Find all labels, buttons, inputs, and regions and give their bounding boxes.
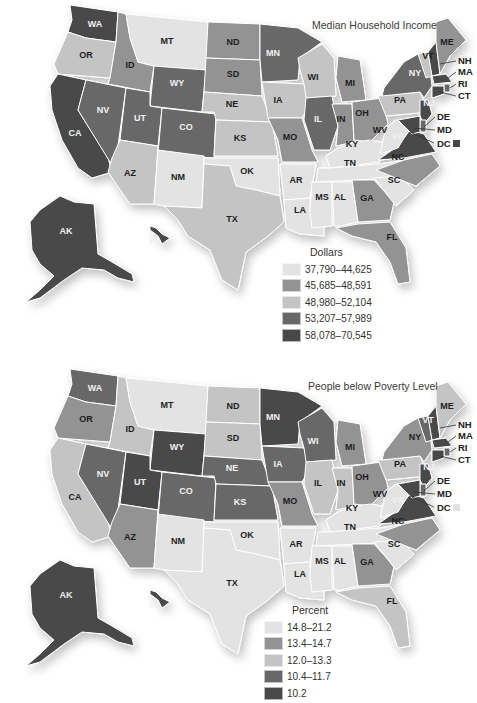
state-label-ut: UT — [134, 113, 146, 123]
state-label-ky: KY — [346, 139, 359, 149]
callout-label-ct: CT — [458, 454, 471, 465]
state-label-mo: MO — [283, 496, 298, 506]
legend-item: 45,685–48,591 — [282, 278, 372, 295]
legend-item: 10.4–11.7 — [264, 669, 332, 686]
state-ma — [432, 74, 452, 84]
state-label-wy: WY — [170, 442, 185, 452]
state-label-ks: KS — [234, 133, 247, 143]
state-label-co: CO — [179, 122, 193, 132]
state-label-me: ME — [440, 401, 454, 411]
state-ms — [310, 546, 332, 592]
state-co — [158, 108, 216, 158]
callout-label-ri: RI — [458, 78, 468, 89]
state-label-or: OR — [79, 50, 93, 60]
legend-item: 10.2 — [264, 685, 332, 702]
state-label-co: CO — [179, 486, 193, 496]
state-label-tn: TN — [344, 522, 356, 532]
map-panel-income: WAORCAIDNVMTWYUTCOAZNMNDSDNEKSOKTXMNIAMO… — [0, 0, 477, 350]
legend-item: 37,790–44,625 — [282, 261, 372, 278]
legend-label: 45,685–48,591 — [305, 280, 372, 291]
dc-swatch — [453, 504, 460, 511]
legend-swatch — [282, 296, 301, 309]
state-label-hi: HI — [150, 600, 159, 610]
state-label-oh: OH — [355, 108, 369, 118]
state-fl — [336, 586, 410, 648]
state-label-tn: TN — [344, 158, 356, 168]
state-label-sc: SC — [388, 539, 401, 549]
callout-label-ma: MA — [458, 430, 473, 441]
callout-label-ct: CT — [458, 90, 471, 101]
legend-item: 14.8–21.2 — [264, 619, 332, 636]
state-label-vt: VT — [422, 51, 434, 61]
legend-label: 10.4–11.7 — [287, 671, 331, 682]
state-label-nv: NV — [97, 469, 110, 479]
state-label-sd: SD — [227, 69, 240, 79]
state-label-ar: AR — [290, 175, 303, 185]
callout-label-de: DE — [437, 475, 450, 486]
legend: Dollars 37,790–44,625 45,685–48,591 48,9… — [282, 246, 372, 344]
legend-label: 37,790–44,625 — [305, 264, 372, 275]
state-label-mt: MT — [161, 36, 174, 46]
state-label-mn: MN — [266, 412, 280, 422]
legend-swatch — [264, 637, 283, 650]
state-ma — [432, 438, 452, 448]
state-label-nj: NJ — [423, 98, 435, 108]
legend-label: 58,078–70,545 — [305, 330, 372, 341]
leader-line — [450, 84, 456, 88]
legend-swatch — [264, 670, 283, 683]
state-label-mt: MT — [161, 400, 174, 410]
state-label-nd: ND — [227, 401, 240, 411]
state-label-or: OR — [79, 414, 93, 424]
state-wy — [150, 66, 206, 112]
state-label-ar: AR — [290, 539, 303, 549]
callout-label-nh: NH — [458, 419, 472, 430]
us-map-income: WAORCAIDNVMTWYUTCOAZNMNDSDNEKSOKTXMNIAMO… — [0, 0, 477, 350]
state-label-fl: FL — [387, 232, 398, 242]
state-label-wi: WI — [308, 72, 319, 82]
state-wy — [150, 430, 206, 476]
state-ak — [26, 196, 134, 302]
legend-item: 53,207–57,989 — [282, 311, 372, 328]
state-label-ks: KS — [234, 497, 247, 507]
state-label-nd: ND — [227, 37, 240, 47]
state-ia — [262, 82, 310, 118]
state-label-mo: MO — [283, 132, 298, 142]
state-label-nm: NM — [171, 172, 185, 182]
legend-label: 13.4–14.7 — [287, 638, 332, 649]
state-label-mi: MI — [345, 78, 355, 88]
state-label-tx: TX — [226, 578, 238, 588]
state-ct — [432, 450, 444, 462]
state-label-id: ID — [126, 424, 136, 434]
state-label-ne: NE — [226, 463, 239, 473]
state-label-me: ME — [440, 37, 454, 47]
state-ct — [432, 86, 444, 98]
legend-label: 12.0–13.3 — [287, 655, 332, 666]
state-label-az: AZ — [124, 168, 136, 178]
state-ri — [444, 84, 450, 92]
state-label-wi: WI — [308, 436, 319, 446]
callout-label-ri: RI — [458, 442, 468, 453]
state-label-ga: GA — [360, 557, 374, 567]
state-label-ak: AK — [60, 226, 73, 236]
state-label-ny: NY — [409, 432, 422, 442]
state-label-nm: NM — [171, 536, 185, 546]
state-label-ok: OK — [240, 166, 254, 176]
legend-label: 53,207–57,989 — [305, 313, 372, 324]
state-label-ne: NE — [226, 99, 239, 109]
state-label-il: IL — [314, 478, 323, 488]
state-label-va: VA — [392, 131, 404, 141]
state-label-mn: MN — [266, 48, 280, 58]
state-label-pa: PA — [394, 95, 406, 105]
state-label-wv: WV — [373, 125, 388, 135]
state-label-nc: NC — [392, 516, 405, 526]
callout-label-dc: DC — [437, 502, 451, 513]
state-label-la: LA — [294, 205, 306, 215]
state-label-ms: MS — [315, 556, 329, 566]
map-panel-poverty: WAORCAIDNVMTWYUTCOAZNMNDSDNEKSOKTXMNIAMO… — [0, 352, 477, 702]
state-label-la: LA — [294, 569, 306, 579]
state-label-id: ID — [126, 60, 136, 70]
state-label-vt: VT — [422, 415, 434, 425]
dc-swatch — [453, 140, 460, 147]
callout-label-dc: DC — [437, 138, 451, 149]
state-label-il: IL — [314, 114, 323, 124]
